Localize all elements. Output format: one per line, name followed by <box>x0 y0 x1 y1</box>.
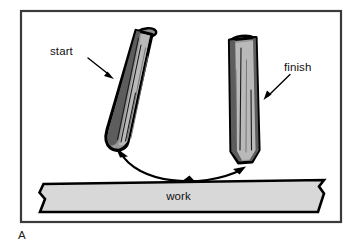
chisel-finish-highlight <box>235 41 256 160</box>
chisel-finish-streak-2 <box>246 60 247 152</box>
chisel-finish-streak-3 <box>251 90 252 150</box>
chisel-finish-streak-4 <box>236 70 237 140</box>
panel-id-label: A <box>18 229 26 241</box>
chisel-finish <box>230 36 260 163</box>
label-finish: finish <box>284 61 311 73</box>
label-start: start <box>50 45 73 57</box>
figure-panel: start finish work A <box>0 0 357 248</box>
label-work: work <box>0 190 357 202</box>
figure-illustration <box>0 0 357 248</box>
